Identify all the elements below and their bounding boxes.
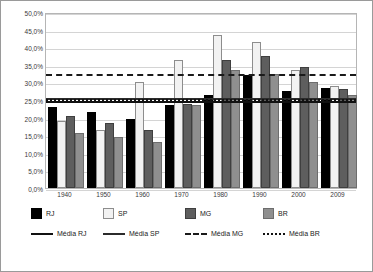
bar-sp [252, 42, 261, 188]
y-axis-tick-label: 15,0% [3, 133, 43, 140]
legend-label-media-rj: Média RJ [57, 230, 87, 237]
bar-sp [213, 35, 222, 188]
bar-rj [87, 112, 96, 188]
y-axis-tick-label: 20,0% [3, 115, 43, 122]
legend-line-media-rj-icon [31, 233, 53, 235]
legend-item-media-sp: Média SP [103, 230, 185, 237]
legend-row-averages: Média RJ Média SP Média MG Média BR [29, 230, 349, 237]
average-line-br [46, 99, 356, 101]
x-axis-tick-label: 1970 [174, 191, 188, 198]
bar-mg [183, 104, 192, 188]
bar-br [270, 74, 279, 188]
bar-rj [243, 75, 252, 188]
bar-rj [126, 119, 135, 188]
x-axis-tick-label: 2000 [291, 191, 305, 198]
x-axis-tick-label: 1980 [213, 191, 227, 198]
legend-item-media-rj: Média RJ [31, 230, 103, 237]
bar-rj [204, 95, 213, 188]
legend-swatch-mg-icon [185, 208, 196, 219]
x-axis-tick-label: 2009 [330, 191, 344, 198]
chart-legend: RJ SP MG BR Média RJ Média SP [29, 208, 349, 258]
legend-label-mg: MG [200, 210, 211, 217]
y-axis-tick-label: 30,0% [3, 80, 43, 87]
legend-label-media-mg: Média MG [211, 230, 243, 237]
y-axis-tick-label: 35,0% [3, 62, 43, 69]
x-axis: 19401950196019701980199020002009 [45, 191, 357, 203]
legend-line-media-sp-icon [103, 233, 125, 235]
bar-br [192, 105, 201, 188]
y-axis: 0,0%5,0%10,0%15,0%20,0%25,0%30,0%35,0%40… [1, 13, 43, 189]
legend-item-br: BR [263, 208, 288, 219]
legend-item-mg: MG [185, 208, 263, 219]
x-axis-tick-label: 1940 [57, 191, 71, 198]
legend-label-media-br: Média BR [289, 230, 320, 237]
bar-mg [300, 67, 309, 188]
x-axis-tick-label: 1950 [96, 191, 110, 198]
legend-label-rj: RJ [46, 210, 55, 217]
y-axis-tick-label: 45,0% [3, 27, 43, 34]
legend-row-series: RJ SP MG BR [29, 208, 349, 219]
x-axis-tick-label: 1960 [135, 191, 149, 198]
y-axis-tick-label: 40,0% [3, 45, 43, 52]
chart-container: 0,0%5,0%10,0%15,0%20,0%25,0%30,0%35,0%40… [0, 0, 373, 272]
bar-br [153, 142, 162, 188]
plot-area [45, 13, 357, 189]
legend-line-media-br-icon [263, 233, 285, 235]
y-axis-tick-label: 10,0% [3, 150, 43, 157]
bar-br [348, 95, 357, 188]
legend-label-sp: SP [118, 210, 127, 217]
bar-sp [57, 121, 66, 188]
bar-br [75, 133, 84, 188]
bar-sp [96, 130, 105, 188]
bar-rj [282, 91, 291, 188]
bar-rj [165, 105, 174, 188]
legend-label-br: BR [278, 210, 288, 217]
bar-mg [105, 123, 114, 188]
bar-br [114, 137, 123, 188]
legend-label-media-sp: Média SP [129, 230, 159, 237]
legend-swatch-rj-icon [31, 208, 42, 219]
legend-line-media-mg-icon [185, 233, 207, 235]
bar-sp [174, 60, 183, 188]
bar-rj [48, 107, 57, 188]
bar-br [231, 70, 240, 188]
bar-mg [144, 130, 153, 188]
bar-mg [339, 89, 348, 188]
y-axis-tick-label: 25,0% [3, 98, 43, 105]
bar-mg [66, 116, 75, 188]
y-axis-tick-label: 50,0% [3, 10, 43, 17]
legend-swatch-sp-icon [103, 208, 114, 219]
legend-item-media-mg: Média MG [185, 230, 263, 237]
x-axis-tick-label: 1990 [252, 191, 266, 198]
legend-swatch-br-icon [263, 208, 274, 219]
y-axis-tick-label: 0,0% [3, 186, 43, 193]
y-axis-tick-label: 5,0% [3, 168, 43, 175]
bar-mg [222, 60, 231, 188]
average-line-mg [46, 74, 356, 76]
legend-item-rj: RJ [31, 208, 103, 219]
average-line-rj [46, 101, 356, 103]
legend-item-sp: SP [103, 208, 185, 219]
bar-sp [291, 70, 300, 188]
legend-item-media-br: Média BR [263, 230, 320, 237]
